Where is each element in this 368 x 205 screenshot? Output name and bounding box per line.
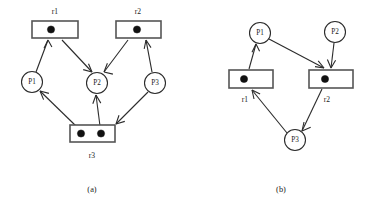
transition-b-r2[interactable]: r2 xyxy=(309,70,353,104)
token xyxy=(47,26,54,33)
token xyxy=(97,130,104,137)
place-label-p1: P1 xyxy=(28,78,36,86)
arc-p3-to-r3 xyxy=(116,92,148,124)
arc-r1-to-p1 xyxy=(249,44,260,69)
arc-r3-to-p1 xyxy=(40,91,76,126)
token xyxy=(240,75,247,82)
transition-b-r1[interactable]: r1 xyxy=(229,70,273,104)
transition-label-r1: r1 xyxy=(242,95,249,104)
arc-r3-to-p2 xyxy=(93,95,101,126)
transition-label-r1: r1 xyxy=(52,7,59,16)
panel-b-caption: (b) xyxy=(276,185,286,194)
place-a-p3[interactable]: P3 xyxy=(145,73,166,94)
transition-label-r3: r3 xyxy=(89,151,96,160)
place-a-p1[interactable]: P1 xyxy=(22,72,43,93)
arc-p1-to-r2 xyxy=(269,39,324,68)
arc-r2-to-p3 xyxy=(302,89,322,131)
petri-net-figure: r1 r2 r3 P1 P2 xyxy=(0,0,368,205)
token xyxy=(321,75,328,82)
token xyxy=(133,26,140,33)
transition-a-r1[interactable]: r1 xyxy=(32,7,78,38)
arc-p2-to-r2 xyxy=(327,43,335,68)
arc-p3-to-r1 xyxy=(252,90,287,133)
place-b-p2[interactable]: P2 xyxy=(325,22,346,43)
panel-b: r1 r2 P1 P2 P3 (b) xyxy=(229,22,353,194)
place-b-p1[interactable]: P1 xyxy=(250,23,271,44)
petri-net-canvas: r1 r2 r3 P1 P2 xyxy=(0,0,368,205)
place-label-p3: P3 xyxy=(291,136,299,144)
place-a-p2[interactable]: P2 xyxy=(87,73,108,94)
place-label-p1: P1 xyxy=(256,29,264,37)
token xyxy=(77,130,84,137)
place-label-p2: P2 xyxy=(93,79,101,87)
panel-a-caption: (a) xyxy=(87,185,97,194)
arc-r1-to-p2 xyxy=(62,40,92,72)
transition-label-r2: r2 xyxy=(324,95,331,104)
transition-a-r3[interactable]: r3 xyxy=(70,125,115,160)
place-label-p2: P2 xyxy=(331,28,339,36)
place-label-p3: P3 xyxy=(151,79,159,87)
panel-a: r1 r2 r3 P1 P2 xyxy=(22,7,166,194)
arc-r2-to-p2 xyxy=(104,40,128,74)
transition-label-r2: r2 xyxy=(135,7,142,16)
transition-a-r2[interactable]: r2 xyxy=(116,7,161,38)
arc-p1-to-r1 xyxy=(36,40,52,72)
arc-p3-to-r2 xyxy=(144,40,152,72)
place-b-p3[interactable]: P3 xyxy=(285,130,306,151)
